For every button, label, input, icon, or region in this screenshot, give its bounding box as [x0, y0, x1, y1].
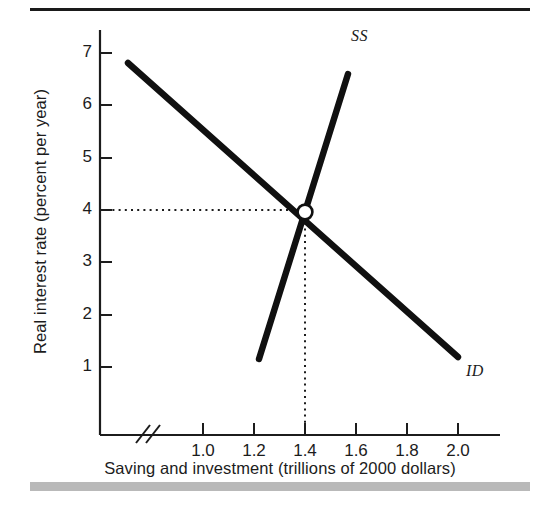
y-tick-label-2: 2 [66, 304, 92, 324]
y-tick-label-1: 1 [66, 356, 92, 376]
x-tick-label-1-8: 1.8 [381, 441, 433, 461]
y-tick-label-5: 5 [66, 147, 92, 167]
id-curve [128, 63, 458, 357]
x-tick-label-1-2: 1.2 [228, 441, 280, 461]
x-axis-title: Saving and investment (trillions of 2000… [30, 459, 530, 478]
equilibrium-point-marker [298, 205, 313, 220]
y-tick-label-3: 3 [66, 251, 92, 271]
x-tick-label-2-0: 2.0 [432, 441, 484, 461]
x-tick-label-1-4: 1.4 [279, 441, 331, 461]
id-curve-label: ID [466, 362, 484, 380]
figure-container: 7 6 5 4 3 2 1 1.0 1.2 1.4 1.6 1.8 2.0 SS… [0, 0, 556, 505]
y-tick-label-7: 7 [66, 42, 92, 62]
y-tick-label-6: 6 [66, 94, 92, 114]
ss-curve-label: SS [351, 27, 368, 45]
x-axis-ticks [203, 423, 458, 435]
y-axis-title: Real interest rate (percent per year) [31, 27, 50, 417]
x-tick-label-1-0: 1.0 [177, 441, 229, 461]
x-tick-label-1-6: 1.6 [330, 441, 382, 461]
y-tick-label-4: 4 [66, 199, 92, 219]
